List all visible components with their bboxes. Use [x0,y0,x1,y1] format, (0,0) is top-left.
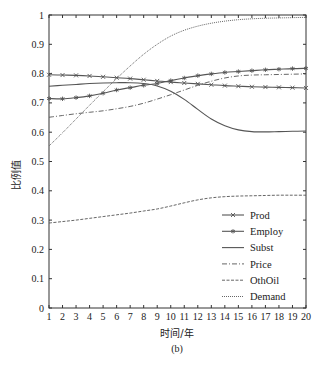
y-tick-label: 0.5 [32,156,45,167]
chart-canvas: 00.10.20.30.40.50.60.70.80.91 1234567891… [0,0,321,366]
x-tick-label: 3 [74,311,79,322]
y-tick-label: 1 [39,10,44,21]
legend-item-employ: Employ [222,226,284,237]
x-tick-label: 15 [233,311,243,322]
legend-label: Prod [250,210,271,221]
series-demand [49,17,306,146]
line-chart: 00.10.20.30.40.50.60.70.80.91 1234567891… [0,0,321,366]
x-tick-label: 16 [247,311,257,322]
y-tick-label: 0 [39,303,44,314]
x-tick-label: 9 [155,311,160,322]
legend-item-othoil: OthOil [222,275,279,286]
figure-caption: (b) [171,343,183,355]
series-layer [47,17,308,223]
x-tick-label: 12 [193,311,203,322]
x-tick-label: 7 [128,311,133,322]
x-tick-label: 17 [260,311,270,322]
series-prod [47,73,308,90]
legend-label: OthOil [250,275,279,286]
legend-label: Price [250,259,272,270]
y-tick-label: 0.4 [32,185,45,196]
legend-label: Subst [250,242,273,253]
x-tick-label: 14 [220,311,230,322]
x-tick-label: 19 [287,311,297,322]
y-tick-label: 0.8 [32,68,45,79]
y-tick-label: 0.7 [32,97,45,108]
legend-label: Demand [250,291,286,302]
x-tick-label: 1 [47,311,52,322]
x-tick-label: 2 [60,311,65,322]
y-tick-label: 0.6 [32,127,45,138]
x-tick-label: 18 [274,311,284,322]
y-tick-label: 0.2 [32,244,45,255]
y-tick-label: 0.1 [32,273,45,284]
x-tick-label: 8 [141,311,146,322]
y-axis-title: 比例值 [10,160,22,190]
legend-item-price: Price [222,259,272,270]
x-axis-title: 时间/年 [160,327,193,339]
legend-label: Employ [250,226,284,237]
x-tick-label: 5 [101,311,106,322]
y-tick-label: 0.9 [32,39,45,50]
x-tick-label: 4 [87,311,92,322]
legend-item-demand: Demand [222,291,286,302]
x-tick-label: 13 [206,311,216,322]
legend-item-prod: Prod [222,210,271,221]
legend: ProdEmploySubstPriceOthOilDemand [222,210,286,303]
x-tick-label: 10 [166,311,176,322]
x-tick-label: 11 [179,311,189,322]
x-tick-label: 6 [114,311,119,322]
x-tick-label: 20 [301,311,311,322]
y-tick-label: 0.3 [32,215,45,226]
legend-item-subst: Subst [222,242,273,253]
